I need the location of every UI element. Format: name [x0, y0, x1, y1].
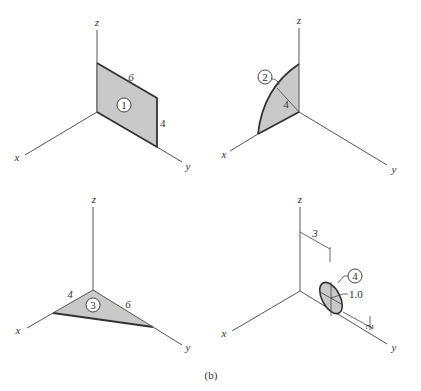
dim-label-6: 6 [128, 71, 134, 83]
z-axis-label: z [297, 193, 303, 205]
x-axis [25, 112, 97, 155]
y-axis-label: y [185, 341, 191, 353]
x-axis-label: x [15, 324, 21, 336]
y-axis [157, 147, 182, 162]
dim-label-4: 4 [67, 288, 73, 300]
panel-4: 3 1.0 4 2 z x y [221, 193, 397, 353]
y-axis-label: y [391, 341, 397, 353]
y-axis-label: y [185, 160, 191, 172]
panel-3: 3 4 6 z x y [15, 193, 191, 353]
z-axis-label: z [91, 193, 97, 205]
y-axis [153, 327, 182, 345]
dim-label-1.0: 1.0 [349, 288, 363, 300]
dim-label-radius: 4 [283, 98, 289, 110]
tag-leader-4 [338, 276, 349, 283]
area-tag-2: 2 [262, 71, 268, 83]
y-axis [299, 112, 387, 165]
z-axis-label: z [296, 14, 302, 26]
figure-caption: (b) [205, 369, 218, 382]
area-tag-1: 1 [121, 99, 127, 111]
dim-label-3: 3 [311, 227, 318, 239]
x-axis-label: x [221, 327, 227, 339]
x-axis [232, 291, 300, 331]
panel-2: 2 4 z x y [221, 14, 397, 175]
y-axis [300, 291, 387, 344]
area-tag-3: 3 [90, 299, 96, 311]
panel-1: 1 6 4 z x y [14, 16, 191, 172]
x-axis-label: x [221, 148, 227, 160]
figure-canvas: 1 6 4 z x y 2 4 z x y 3 4 6 z [0, 0, 421, 391]
x-axis [27, 313, 53, 328]
x-axis-label: x [14, 151, 20, 163]
y-axis-label: y [391, 163, 397, 175]
z-axis-label: z [94, 16, 100, 28]
dim-label-2: 2 [363, 324, 375, 330]
x-axis [230, 134, 258, 151]
dim-label-6: 6 [125, 298, 131, 310]
area-tag-4: 4 [352, 270, 358, 282]
dim-label-4: 4 [160, 117, 166, 129]
